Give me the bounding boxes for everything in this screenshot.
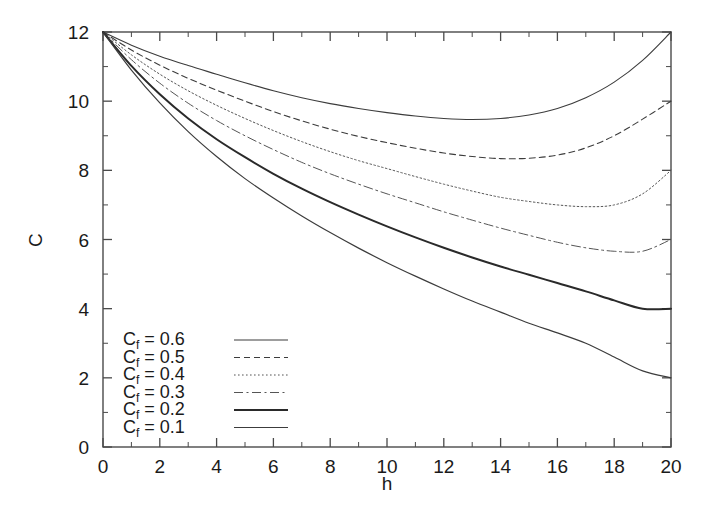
y-tick-label: 4 <box>78 299 89 320</box>
x-tick-label: 20 <box>660 456 681 477</box>
x-tick-label: 12 <box>433 456 454 477</box>
x-tick-label: 6 <box>268 456 279 477</box>
y-tick-label: 8 <box>78 160 89 181</box>
y-tick-label: 2 <box>78 368 89 389</box>
x-tick-label: 0 <box>98 456 109 477</box>
legend-symbol: C <box>123 417 136 437</box>
x-tick-label: 18 <box>604 456 625 477</box>
x-tick-label: 16 <box>547 456 568 477</box>
line-chart: 02468101214161820 024681012 h C Cf = 0.6… <box>0 0 712 526</box>
x-tick-label: 14 <box>490 456 512 477</box>
y-tick-label: 10 <box>68 91 89 112</box>
x-tick-label: 4 <box>211 456 222 477</box>
x-tick-label: 8 <box>325 456 336 477</box>
y-tick-label: 0 <box>78 437 89 458</box>
y-tick-label: 6 <box>78 230 89 251</box>
legend-label-5: Cf = 0.1 <box>123 417 185 440</box>
chart-figure: 02468101214161820 024681012 h C Cf = 0.6… <box>0 0 712 526</box>
y-axis-title: C <box>25 233 46 247</box>
legend-value: = 0.1 <box>139 417 185 437</box>
x-axis-title: h <box>382 473 393 494</box>
x-tick-label: 2 <box>155 456 166 477</box>
y-tick-label: 12 <box>68 22 89 43</box>
